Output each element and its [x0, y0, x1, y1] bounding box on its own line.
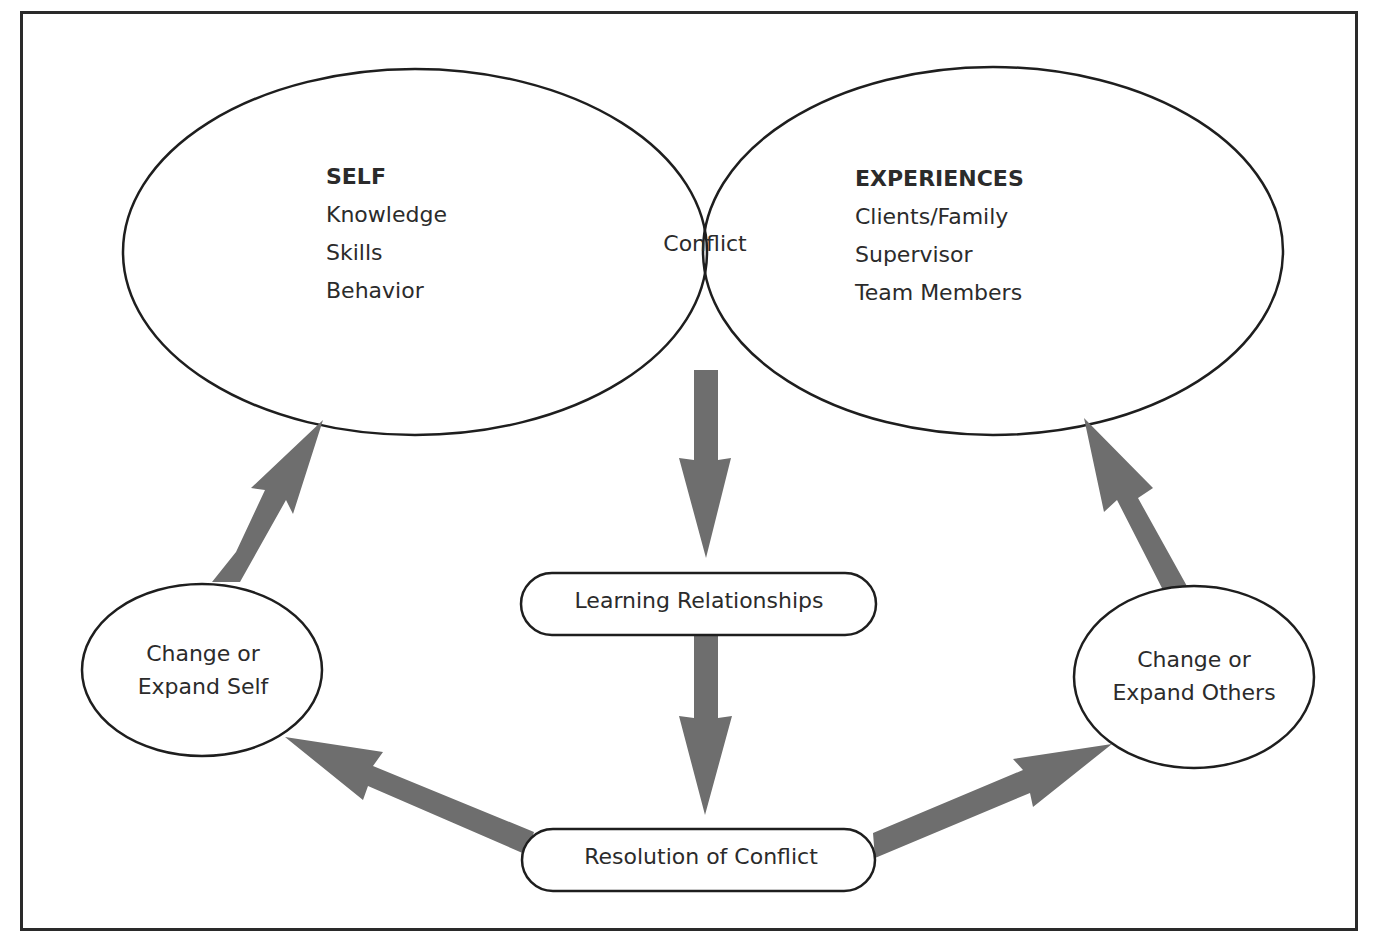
change-others-line-1: Change or	[1112, 643, 1275, 676]
self-item-skills: Skills	[326, 234, 447, 272]
conflict-label: Conflict	[663, 227, 746, 260]
change-others-label: Change or Expand Others	[1112, 643, 1275, 709]
change-others-line-2: Expand Others	[1112, 676, 1275, 709]
arrow-up-right-icon	[212, 420, 323, 582]
experiences-item-supervisor: Supervisor	[855, 236, 1024, 274]
self-item-knowledge: Knowledge	[326, 196, 447, 234]
change-self-line-2: Expand Self	[138, 670, 269, 703]
resolution-of-conflict-label: Resolution of Conflict	[584, 840, 818, 873]
self-item-behavior: Behavior	[326, 272, 447, 310]
change-self-line-1: Change or	[138, 637, 269, 670]
experiences-item-clients-family: Clients/Family	[855, 198, 1024, 236]
experiences-heading: EXPERIENCES	[855, 160, 1024, 198]
experiences-item-team-members: Team Members	[855, 274, 1024, 312]
learning-relationships-label: Learning Relationships	[574, 584, 823, 617]
experiences-label-group: EXPERIENCES Clients/Family Supervisor Te…	[855, 160, 1024, 312]
self-label-group: SELF Knowledge Skills Behavior	[326, 158, 447, 310]
change-self-label: Change or Expand Self	[138, 637, 269, 703]
arrow-down-icon	[679, 636, 732, 815]
arrow-right-up-icon	[873, 744, 1112, 858]
arrow-left-up-icon	[285, 737, 534, 855]
diagram-canvas	[0, 0, 1388, 943]
arrow-up-left-icon	[1084, 418, 1188, 590]
arrow-down-icon	[679, 370, 731, 558]
self-heading: SELF	[326, 158, 447, 196]
